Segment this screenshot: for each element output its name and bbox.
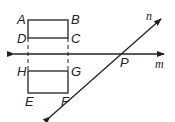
label-e: E <box>25 94 34 109</box>
label-m: m <box>155 57 164 71</box>
label-b: B <box>71 12 80 27</box>
label-h: H <box>17 64 27 79</box>
rectangle-hgfe <box>28 71 68 93</box>
label-g: G <box>71 64 81 79</box>
rectangle-abcd <box>28 20 68 38</box>
label-p: P <box>120 55 129 70</box>
label-c: C <box>71 31 81 46</box>
label-n: n <box>146 9 152 23</box>
label-a: A <box>16 12 26 27</box>
geometry-diagram: A B C D H G E F P m n <box>0 0 175 122</box>
label-f: F <box>61 94 70 109</box>
label-d: D <box>17 31 26 46</box>
